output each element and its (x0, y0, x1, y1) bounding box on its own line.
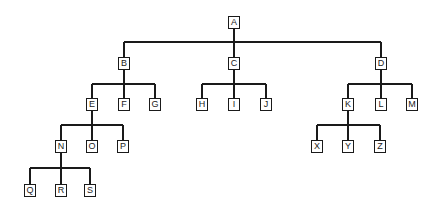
tree-node-g: G (149, 98, 161, 111)
tree-node-s: S (84, 184, 96, 197)
tree-node-f: F (118, 98, 130, 111)
tree-node-o: O (86, 140, 98, 153)
tree-node-b: B (118, 57, 130, 70)
tree-node-q: Q (24, 184, 36, 197)
tree-node-r: R (55, 184, 67, 197)
tree-node-x: X (311, 140, 323, 153)
tree-node-k: K (342, 98, 354, 111)
tree-node-h: H (196, 98, 208, 111)
tree-node-z: Z (374, 140, 386, 153)
tree-node-i: I (228, 98, 240, 111)
tree-node-c: C (228, 57, 240, 70)
tree-node-m: M (406, 98, 418, 111)
tree-node-y: Y (342, 140, 354, 153)
tree-node-a: A (228, 16, 240, 29)
tree-node-p: P (117, 140, 129, 153)
tree-node-l: L (375, 98, 387, 111)
tree-node-e: E (86, 98, 98, 111)
tree-edges (0, 0, 435, 212)
tree-node-d: D (375, 57, 387, 70)
tree-node-n: N (55, 140, 67, 153)
tree-node-j: J (260, 98, 272, 111)
